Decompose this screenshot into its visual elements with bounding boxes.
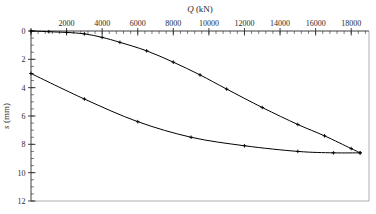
y-tick-label: 10: [18, 169, 26, 178]
x-tick-label: 4000: [94, 19, 110, 28]
data-point-marker: [323, 134, 327, 138]
y-tick-label: 0: [22, 27, 26, 36]
x-tick-label: 12000: [234, 19, 254, 28]
x-tick-label: 18000: [341, 19, 361, 28]
data-point-marker: [29, 72, 33, 76]
x-tick-label: 2000: [59, 19, 75, 28]
series-line-lower-branch: [31, 74, 360, 153]
y-tick-label: 8: [22, 140, 26, 149]
series-line-upper-branch: [31, 31, 360, 153]
y-tick-label: 2: [22, 55, 26, 64]
x-axis-title: Q (kN): [187, 4, 213, 14]
y-axis-title: s (mm): [1, 103, 11, 129]
data-point-marker: [118, 41, 122, 45]
data-point-marker: [136, 120, 140, 124]
x-tick-label: 16000: [306, 19, 326, 28]
data-point-marker: [29, 29, 33, 33]
data-point-marker: [172, 60, 176, 64]
data-point-marker: [296, 123, 300, 127]
y-tick-label: 6: [22, 112, 26, 121]
data-point-marker: [100, 36, 104, 40]
data-point-marker: [189, 135, 193, 139]
data-point-marker: [225, 87, 229, 91]
data-point-marker: [83, 97, 87, 101]
data-point-marker: [358, 151, 362, 155]
data-point-marker: [260, 106, 264, 110]
x-tick-label: 6000: [130, 19, 146, 28]
data-point-marker: [332, 151, 336, 155]
x-tick-label: 10000: [199, 19, 219, 28]
chart-figure: 2000400060008000100001200014000160001800…: [0, 0, 376, 214]
x-tick-label: 8000: [165, 19, 181, 28]
data-point-marker: [349, 147, 353, 151]
x-tick-label: 14000: [270, 19, 290, 28]
data-point-marker: [83, 32, 87, 36]
data-point-marker: [47, 30, 51, 34]
data-point-marker: [243, 144, 247, 148]
y-tick-label: 4: [22, 84, 26, 93]
load-settlement-chart: 2000400060008000100001200014000160001800…: [0, 0, 376, 214]
data-point-marker: [198, 73, 202, 77]
data-point-marker: [145, 49, 149, 53]
y-tick-label: 12: [18, 197, 26, 206]
data-point-marker: [296, 150, 300, 154]
